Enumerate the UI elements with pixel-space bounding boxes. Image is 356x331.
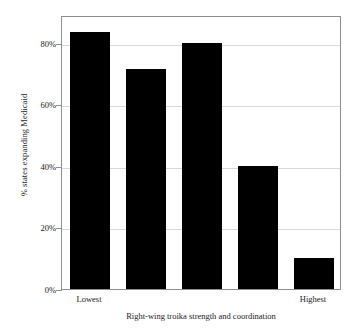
- bar-chart-figure: % states expanding Medicaid 0%20%40%60%8…: [0, 0, 356, 331]
- bar: [126, 69, 166, 289]
- x-tick-label: Lowest: [61, 294, 117, 305]
- bar: [238, 166, 278, 289]
- plot-area: [61, 16, 341, 290]
- y-tick-mark: [56, 290, 62, 291]
- y-tick-label: 80%: [10, 39, 56, 49]
- y-tick-label: 0%: [10, 285, 56, 295]
- bar: [70, 32, 110, 289]
- y-tick-label: 20%: [10, 223, 56, 233]
- bar: [182, 43, 222, 289]
- y-tick-label: 60%: [10, 100, 56, 110]
- x-axis-title: Right-wing troika strength and coordinat…: [61, 311, 341, 322]
- bar: [294, 258, 334, 289]
- y-tick-label: 40%: [10, 162, 56, 172]
- x-tick-label: Highest: [285, 294, 341, 305]
